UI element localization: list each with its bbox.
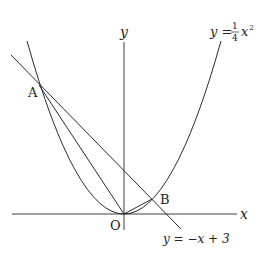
line-y-neg-x-plus-3 — [11, 55, 181, 229]
coordinate-diagram: y x O A B y = 1 4 x 2 y = −x + 3 — [0, 0, 262, 258]
segment-OA — [39, 85, 124, 214]
x-axis-label: x — [240, 206, 248, 222]
point-B-label: B — [160, 192, 170, 207]
line-equation: y = −x + 3 — [162, 232, 230, 246]
parabola-eq-num: 1 — [232, 21, 238, 31]
parabola-eq-exp: 2 — [249, 23, 254, 32]
point-A-label: A — [27, 85, 38, 100]
parabola-eq-lhs: y = — [209, 24, 232, 39]
parabola-equation: y = 1 4 x 2 — [209, 21, 254, 43]
segment-OB — [124, 199, 152, 214]
parabola-eq-var: x — [241, 24, 249, 39]
y-axis-label: y — [119, 24, 129, 40]
origin-label: O — [110, 218, 121, 233]
parabola-eq-den: 4 — [232, 33, 238, 43]
